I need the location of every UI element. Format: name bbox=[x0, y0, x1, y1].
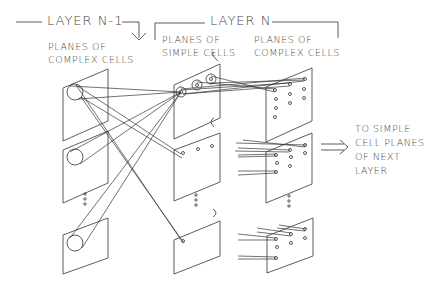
output-label-2: CELL PLANES bbox=[355, 136, 425, 149]
simple-plane-3 bbox=[174, 221, 220, 274]
ellipsis-prev bbox=[84, 193, 86, 205]
complex-plane-curr-3 bbox=[267, 218, 313, 273]
complex-label-1: PLANES OF bbox=[254, 33, 312, 46]
complex-plane-prev-1 bbox=[63, 69, 108, 141]
simple-plane-1 bbox=[174, 64, 220, 139]
layer-n-title: LAYER N bbox=[210, 14, 271, 27]
ellipsis-complex bbox=[288, 195, 290, 207]
complex-plane-prev-2 bbox=[63, 131, 108, 203]
complex-plane-prev-3 bbox=[63, 218, 108, 274]
output-label-4: LAYER bbox=[355, 164, 388, 177]
output-label-1: TO SIMPLE bbox=[355, 122, 411, 135]
incoming-lines-complex-2 bbox=[235, 140, 306, 175]
layer-n-1-title: LAYER N-1 bbox=[47, 14, 123, 27]
complex-label-2: COMPLEX CELLS bbox=[254, 46, 340, 59]
simple-label-1: PLANES OF bbox=[162, 33, 220, 46]
prev-complex-label-2: COMPLEX CELLS bbox=[48, 53, 134, 66]
simple-label-2: SIMPLE CELLS bbox=[162, 46, 236, 59]
ellipsis-simple bbox=[195, 194, 197, 206]
c-marker-2 bbox=[211, 118, 214, 127]
layer-n-1-down-arrow-icon bbox=[122, 22, 146, 40]
output-arrow-icon bbox=[321, 140, 348, 154]
connections-prev-to-simple bbox=[70, 85, 184, 248]
simple-plane-2 bbox=[174, 133, 220, 201]
incoming-lines-complex-3 bbox=[238, 225, 306, 259]
c-marker-3 bbox=[213, 209, 216, 217]
output-label-3: OF NEXT bbox=[355, 150, 400, 163]
prev-complex-label-1: PLANES OF bbox=[48, 40, 106, 53]
